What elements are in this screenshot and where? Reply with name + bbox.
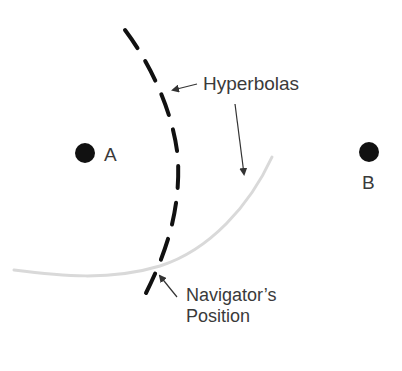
station-a-label: A — [104, 145, 117, 164]
navigator-label-line1: Navigator’s — [186, 285, 276, 306]
station-a-dot — [75, 143, 95, 163]
hyperbolas-arrow-to-faint — [235, 104, 244, 174]
navigator-arrow — [160, 276, 177, 297]
navigator-label-line2: Position — [186, 306, 276, 327]
station-b-dot — [359, 142, 379, 162]
hyperbolas-arrow-to-dashed — [173, 84, 197, 90]
station-b-label: B — [362, 173, 375, 192]
dashed-hyperbola — [125, 30, 178, 293]
hyperbolas-label: Hyperbolas — [203, 74, 299, 93]
navigator-position-label: Navigator’s Position — [186, 285, 276, 327]
faint-hyperbola — [14, 157, 272, 276]
